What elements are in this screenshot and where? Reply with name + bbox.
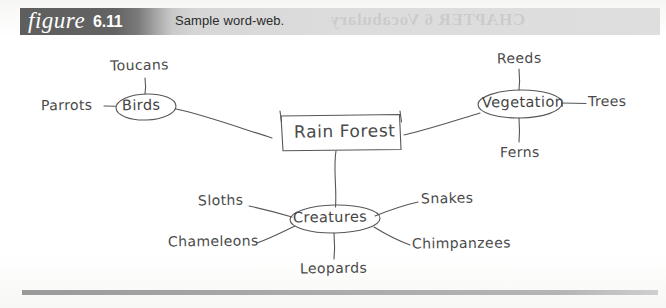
edge-toucans-birds [145,78,146,94]
figure-page: CHAPTER 6 Vocabulary figure 6.11 Sample … [0,0,666,308]
edge-leopards-creatures [334,233,335,259]
edge-reeds-vegetation [519,69,520,90]
edge-rainforest-vegetation [404,113,480,135]
edge-birds-rainforest [176,109,272,138]
word-web-diagram: Toucans Parrots Birds Rain Forest Reeds … [0,36,666,288]
rainforest-tick-left [280,111,282,122]
label-sloths: Sloths [198,192,244,209]
edge-chimpanzees-creatures [374,227,410,245]
label-parrots: Parrots [41,97,93,113]
node-vegetation: Vegetation [482,94,564,111]
label-chimpanzees: Chimpanzees [412,234,511,251]
word-web-strokes [0,36,666,288]
edge-rainforest-creatures [335,151,336,207]
edge-trees-vegetation [562,103,586,104]
edge-chameleons-creatures [257,226,295,243]
node-birds: Birds [122,97,161,114]
label-chameleons: Chameleons [168,233,259,250]
node-rain-forest: Rain Forest [294,120,396,141]
edge-snakes-creatures [375,202,418,216]
label-reeds: Reeds [497,50,542,67]
edge-ferns-vegetation [519,118,520,142]
figure-label: figure 6.11 [28,9,123,34]
label-snakes: Snakes [421,190,474,207]
bottom-rule [22,290,658,295]
node-creatures: Creatures [293,208,367,225]
label-leopards: Leopards [300,260,367,277]
edge-sloths-creatures [249,206,292,217]
figure-word: figure [28,9,85,32]
label-trees: Trees [588,93,627,109]
label-toucans: Toucans [110,56,169,74]
figure-number: 6.11 [93,13,122,31]
label-ferns: Ferns [500,144,540,160]
figure-caption: Sample word-web. [175,13,284,28]
